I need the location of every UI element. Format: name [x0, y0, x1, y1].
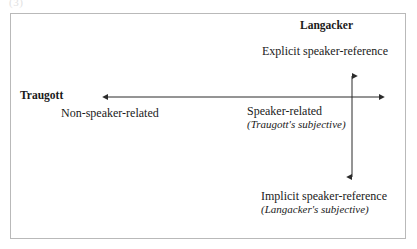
label-traugott-name: Traugott	[20, 89, 63, 102]
figure-container: (3) Langacker Explicit speaker-reference…	[0, 0, 417, 249]
label-implicit-speaker-reference: Implicit speaker-reference	[261, 190, 387, 203]
label-langacker-name: Langacker	[300, 19, 353, 32]
label-traugott-subjective: (Traugott's subjective)	[247, 118, 346, 130]
label-langacker-subjective: (Langacker's subjective)	[261, 203, 369, 215]
label-explicit-speaker-reference: Explicit speaker-reference	[262, 45, 388, 58]
caption-fragment: (3)	[9, 0, 23, 8]
label-speaker-related: Speaker-related	[247, 105, 322, 118]
label-non-speaker-related: Non-speaker-related	[61, 107, 159, 120]
